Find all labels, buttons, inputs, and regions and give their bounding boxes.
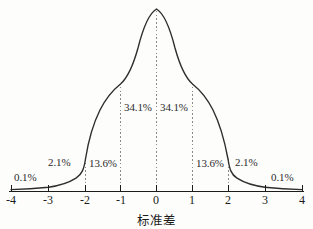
annotation-13.6-left: 13.6% xyxy=(89,158,117,169)
normal-distribution-chart: 0.1% 2.1% 13.6% 34.1% 34.1% 13.6% 2.1% 0… xyxy=(0,0,313,229)
annotation-0.1-right: 0.1% xyxy=(271,172,294,183)
annotation-2.1-right: 2.1% xyxy=(235,157,258,168)
dotted-gridlines xyxy=(49,9,266,191)
x-tick-label-minus2: -2 xyxy=(80,194,90,206)
annotation-2.1-left: 2.1% xyxy=(48,157,71,168)
x-tick-label-plus2: 2 xyxy=(225,194,231,206)
x-tick-label-plus4: 4 xyxy=(299,194,305,206)
x-tick-label-minus1: -1 xyxy=(116,194,126,206)
x-tick-label-plus1: 1 xyxy=(189,194,195,206)
annotation-34.1-left: 34.1% xyxy=(124,102,152,113)
x-tick-label-plus3: 3 xyxy=(262,194,268,206)
x-tick-label-minus4: -4 xyxy=(6,194,16,206)
annotation-34.1-right: 34.1% xyxy=(160,102,188,113)
annotation-0.1-left: 0.1% xyxy=(14,172,37,183)
x-axis-title: 标准差 xyxy=(137,210,176,229)
x-tick-label-minus3: -3 xyxy=(43,194,53,206)
x-tick-label-zero: 0 xyxy=(153,194,159,206)
annotation-13.6-right: 13.6% xyxy=(196,158,224,169)
